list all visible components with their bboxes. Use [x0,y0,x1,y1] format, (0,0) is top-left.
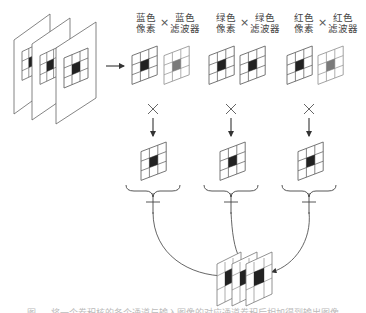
diagram-svg [0,0,366,313]
red-filter-label: 红色 滤波器 [328,12,358,34]
diagram-canvas: 蓝色 像素 × 蓝色 滤波器 绿色 像素 × 绿色 滤波器 红色 像素 × 红色… [0,0,366,313]
blue-filter-label: 蓝色 滤波器 [170,12,200,34]
red-pixel-label-line1: 红色 [294,12,314,23]
red-pixel-label: 红色 像素 [294,12,314,34]
blue-pixel-label: 蓝色 像素 [136,12,156,34]
blue-filter-label-line2: 滤波器 [170,23,200,34]
green-pixel-label: 绿色 像素 [216,12,236,34]
red-filter-label-line2: 滤波器 [328,23,358,34]
red-filter-label-line1: 红色 [328,12,358,23]
red-multiply-symbol: × [318,16,327,29]
blue-pixel-label-line2: 像素 [136,23,156,34]
green-pixel-label-line2: 像素 [216,23,236,34]
green-filter-label-line2: 滤波器 [250,23,280,34]
red-channel [282,46,343,214]
red-pixel-label-line2: 像素 [294,23,314,34]
green-pixel-label-line1: 绿色 [216,12,236,23]
blue-pixel-label-line1: 蓝色 [136,12,156,23]
blue-channel [126,46,189,214]
green-filter-label-line1: 绿色 [250,12,280,23]
green-multiply-symbol: × [240,16,249,29]
input-frames [14,14,96,124]
blue-multiply-symbol: × [160,16,169,29]
blue-filter-label-line1: 蓝色 [170,12,200,23]
green-filter-label: 绿色 滤波器 [250,12,280,34]
output-frames [217,252,272,306]
green-channel [204,46,265,214]
figure-caption: 图 … 将一个卷积核的各个通道与输入图像的对应通道卷积后相加得到输出图像 [0,306,366,313]
